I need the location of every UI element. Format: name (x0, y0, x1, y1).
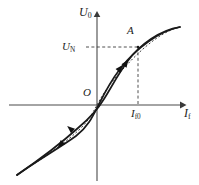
point-a-marker (137, 46, 140, 49)
guide-lines-group (86, 47, 138, 105)
y-axis-label-main: U (79, 5, 88, 19)
x-axis-label-sub: f (188, 112, 191, 121)
y-axis-label-sub: 0 (88, 11, 92, 20)
y-axis-label: U0 (79, 6, 92, 20)
hysteresis-figure: U0 UN If If0 A O (0, 0, 199, 185)
y-axis-arrowhead (94, 11, 101, 17)
point-a-label: A (127, 25, 134, 36)
rated-current-label: If0 (131, 108, 141, 121)
direction-arrows-group (56, 58, 131, 150)
rated-voltage-label-main: U (62, 40, 70, 52)
hysteresis-chart-canvas (0, 0, 199, 185)
origin-label: O (83, 87, 91, 98)
rated-voltage-label-sub: N (70, 46, 75, 54)
ascending-branch-path (17, 27, 180, 175)
rated-current-label-sub: f0 (135, 113, 141, 121)
descending-branch-path (17, 27, 180, 175)
x-axis-label: If (184, 107, 191, 121)
rated-voltage-label: UN (62, 41, 75, 54)
mean-curve-path (17, 27, 180, 175)
